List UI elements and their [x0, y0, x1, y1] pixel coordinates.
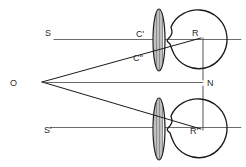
label-R-prime: R' — [190, 126, 198, 136]
ray-from-O-to-lower-retina — [42, 82, 201, 129]
label-O: O — [10, 78, 17, 88]
label-N: N — [207, 78, 214, 88]
label-S: S — [45, 28, 51, 38]
ray-group — [42, 38, 201, 129]
label-C-prime: C' — [136, 29, 144, 39]
ray-from-O-to-upper-retina — [42, 38, 201, 82]
label-S-prime: S' — [44, 125, 52, 135]
upper-lens-group — [153, 9, 165, 71]
label-C-double-prime: C'' — [133, 53, 143, 63]
label-R: R — [192, 28, 199, 38]
optics-diagram-svg: O S S' C' C'' R R' N — [0, 0, 246, 167]
optics-diagram-canvas: O S S' C' C'' R R' N — [0, 0, 246, 167]
lower-lens-group — [153, 98, 165, 160]
